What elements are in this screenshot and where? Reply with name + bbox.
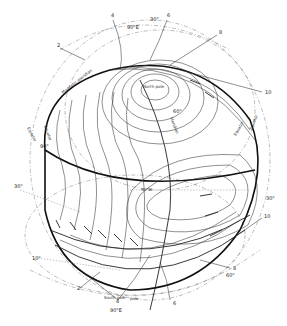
label-30-top: 30° xyxy=(150,16,159,22)
label-90e-top: 90°E xyxy=(127,24,139,30)
label-bottom-2: 2 xyxy=(77,285,80,291)
meridian-lines xyxy=(78,80,171,310)
label-90e-bottom: 90°E xyxy=(110,307,122,313)
label-top-8: 8 xyxy=(219,29,222,35)
label-60-lower: 60° xyxy=(226,272,235,278)
label-60-upper: 60° xyxy=(173,108,182,114)
wavy-contours xyxy=(56,92,144,262)
label-equator-left-outer: Equator xyxy=(26,126,38,143)
spherical-contour-diagram: 2 4 6 8 10 2 4 6 8 10 30° 90°E 60° 30° 6… xyxy=(0,0,287,326)
label-30-right: 30° xyxy=(266,195,275,201)
sweeping-arcs xyxy=(55,68,255,270)
label-magnetic-meridian: Magnetic meridian xyxy=(61,68,94,95)
north-pole-contours xyxy=(102,60,218,144)
label-bottom-8: 8 xyxy=(233,265,236,271)
label-pole: pole xyxy=(130,296,139,301)
label-10-left: 10° xyxy=(32,255,41,261)
label-meridian-center: Meridian xyxy=(169,117,180,135)
label-south-pole: South pole xyxy=(104,295,126,300)
label-top-6: 6 xyxy=(167,12,170,18)
label-equator-right-outer: Equator xyxy=(248,114,259,131)
label-top-2: 2 xyxy=(57,42,60,48)
label-top-10: 10 xyxy=(265,89,271,95)
label-bottom-10: 10 xyxy=(264,213,270,219)
label-90-left: 90° xyxy=(40,143,49,149)
label-bottom-6: 6 xyxy=(173,300,176,306)
label-top-4: 4 xyxy=(111,12,114,18)
south-loop-contours xyxy=(127,154,258,244)
label-90w: 90°W xyxy=(141,187,152,192)
label-30-left: 30° xyxy=(14,183,23,189)
label-north-pole: North pole xyxy=(143,84,165,89)
contour-tick-marks xyxy=(56,80,222,246)
rotated-labels: Magnetic meridian Equator Equator Meridi… xyxy=(26,68,259,143)
label-equator-right-inner: Equator xyxy=(233,120,245,136)
